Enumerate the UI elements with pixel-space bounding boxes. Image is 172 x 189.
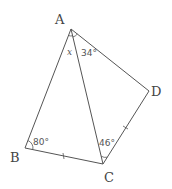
angle-arc-ACD (101, 156, 107, 157)
angle-arc-CAD (73, 34, 78, 37)
vertex-label-D: D (151, 84, 161, 99)
angle-label-46: 46° (99, 138, 115, 148)
angle-label-34: 34° (81, 48, 97, 58)
segment-AB (25, 29, 71, 148)
segment-DA (71, 29, 149, 91)
vertex-label-B: B (10, 150, 20, 165)
angle-label-x: x (67, 47, 72, 57)
vertex-label-A: A (54, 12, 65, 27)
vertex-label-C: C (104, 170, 114, 185)
quadrilateral-diagram: A B C D x 34° 80° 46° (0, 0, 172, 189)
segment-BC (25, 148, 103, 164)
equal-mark-BC (63, 153, 64, 159)
angle-label-80: 80° (33, 137, 49, 147)
